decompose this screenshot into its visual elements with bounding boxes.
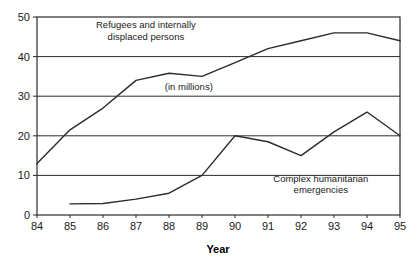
annotation-line: Refugees and internally <box>96 19 196 30</box>
x-tick-label-86: 86 <box>97 220 109 232</box>
x-tick-label-95: 95 <box>394 220 406 232</box>
annotation-line: displaced persons <box>108 31 185 42</box>
chart-background <box>0 0 419 263</box>
x-tick-label-92: 92 <box>295 220 307 232</box>
x-tick-label-90: 90 <box>229 220 241 232</box>
x-tick-label-87: 87 <box>130 220 142 232</box>
annotation-line: emergencies <box>294 184 349 195</box>
y-tick-label-30: 30 <box>18 90 30 102</box>
annotation-line: (in millions) <box>165 81 213 92</box>
x-axis-title: Year <box>206 243 230 255</box>
y-tick-label-20: 20 <box>18 130 30 142</box>
x-tick-label-88: 88 <box>163 220 175 232</box>
annotation-millions-label: (in millions) <box>165 81 213 92</box>
x-tick-label-85: 85 <box>64 220 76 232</box>
x-tick-label-91: 91 <box>262 220 274 232</box>
y-tick-label-10: 10 <box>18 169 30 181</box>
x-tick-label-93: 93 <box>328 220 340 232</box>
x-tick-label-94: 94 <box>361 220 373 232</box>
x-tick-label-89: 89 <box>196 220 208 232</box>
annotation-refugees-label: Refugees and internallydisplaced persons <box>96 19 196 42</box>
x-tick-label-84: 84 <box>31 220 43 232</box>
y-tick-label-40: 40 <box>18 51 30 63</box>
chart-figure: 01020304050 848586878889909192939495 Ref… <box>0 0 419 263</box>
y-tick-label-0: 0 <box>24 209 30 221</box>
annotation-line: Complex humanitarian <box>273 173 368 184</box>
y-tick-label-50: 50 <box>18 11 30 23</box>
